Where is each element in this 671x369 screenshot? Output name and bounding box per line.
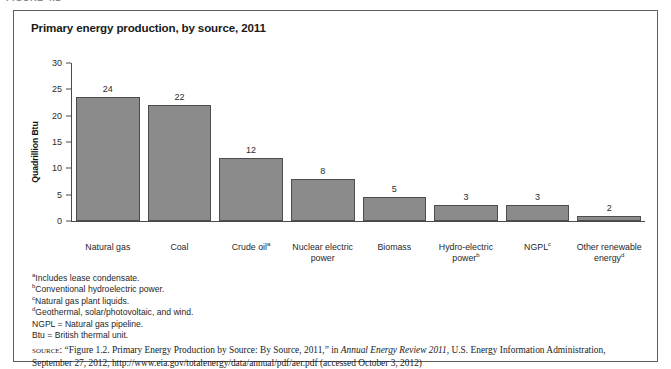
bar-value-label: 2 (573, 203, 645, 213)
source-text-part1: “Figure 1.2. Primary Energy Production b… (62, 345, 341, 355)
x-axis-category-label: Biomass (353, 242, 436, 253)
bar-slot: 3 (430, 63, 502, 221)
x-axis-category-label: Hydro-electricpowerb (424, 242, 507, 264)
x-axis-category-label: Other renewableenergyd (568, 242, 651, 264)
y-axis-tick-label: 15 (52, 137, 62, 147)
x-axis-category-label: Natural gas (66, 242, 149, 253)
bar (219, 158, 283, 221)
bar-slot: 3 (502, 63, 574, 221)
bar (291, 179, 355, 221)
bar-slot: 24 (72, 63, 144, 221)
bar (76, 97, 140, 221)
y-axis-tick-label: 10 (52, 163, 62, 173)
footnote-item: Btu = British thermal unit. (32, 330, 632, 341)
y-axis-title: Quadrillion Btu (28, 63, 42, 241)
bar-slot: 12 (215, 63, 287, 221)
y-axis-title-label: Quadrillion Btu (30, 121, 40, 182)
bar-slot: 5 (359, 63, 431, 221)
footnote-item: dGeothermal, solar/photovoltaic, and win… (32, 307, 632, 318)
bar-slot: 22 (144, 63, 216, 221)
chart-title: Primary energy production, by source, 20… (31, 21, 266, 34)
figure-caption: FIGURE 4.2 (6, 0, 61, 3)
figure-caption-strip: FIGURE 4.2 (0, 0, 671, 7)
footnotes-list: aIncludes lease condensate.bConventional… (32, 273, 632, 341)
figure-box: Primary energy production, by source, 20… (13, 10, 658, 362)
bar-value-label: 3 (502, 192, 574, 202)
y-axis-tick-label: 25 (52, 84, 62, 94)
x-axis-category-label: Nuclear electricpower (281, 242, 364, 264)
y-axis-tick-labels: 302520151050 (42, 63, 66, 241)
footnote-item: cNatural gas plant liquids. (32, 296, 632, 307)
bar-value-label: 22 (144, 92, 216, 102)
bar (363, 197, 427, 221)
footnote-item: aIncludes lease condensate. (32, 273, 632, 284)
bar-slot: 8 (287, 63, 359, 221)
footnote-item: NGPL = Natural gas pipeline. (32, 319, 632, 330)
bar (148, 105, 212, 221)
bar-value-label: 5 (359, 184, 431, 194)
y-axis-tick-label: 0 (57, 216, 62, 226)
bars-container: 24221285332 (72, 63, 645, 221)
source-note: source: “Figure 1.2. Primary Energy Prod… (32, 344, 646, 369)
x-axis-category-label: Coal (138, 242, 221, 253)
y-axis-tick-label: 30 (52, 58, 62, 68)
bar-value-label: 3 (430, 192, 502, 202)
x-axis-line (71, 221, 645, 222)
x-axis-category-label: Crude oila (210, 242, 293, 253)
x-axis-category-label: NGPLc (496, 242, 579, 253)
bar (506, 205, 570, 221)
bar-slot: 2 (573, 63, 645, 221)
y-axis-tick-label: 20 (52, 111, 62, 121)
bar-value-label: 12 (215, 145, 287, 155)
chart-plot-region: Quadrillion Btu 302520151050 24221285332 (28, 63, 645, 241)
y-axis-tick-label: 5 (57, 190, 62, 200)
x-axis-category-labels: Natural gasCoalCrude oilaNuclear electri… (72, 242, 645, 276)
source-label: source: (32, 345, 62, 355)
bar-value-label: 24 (72, 84, 144, 94)
bar-value-label: 8 (287, 166, 359, 176)
source-publication-title: Annual Energy Review 2011 (341, 345, 447, 355)
bar (434, 205, 498, 221)
footnote-item: bConventional hydroelectric power. (32, 284, 632, 295)
